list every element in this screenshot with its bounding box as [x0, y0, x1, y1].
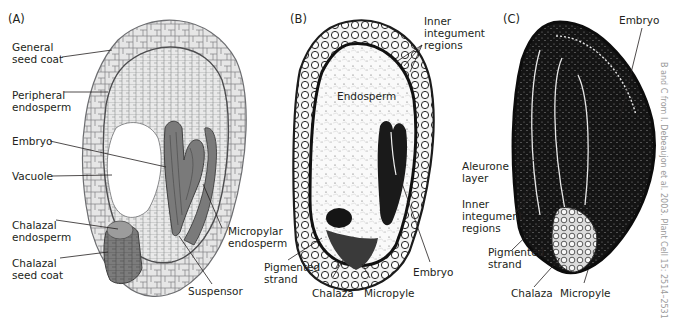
- label-micropylar-endosperm: Micropylar endosperm: [228, 225, 287, 249]
- label-aleurone-layer: Aleurone layer: [462, 160, 509, 184]
- panel-c-micrograph: [513, 22, 654, 273]
- chalazal-endosperm-shape: [107, 221, 133, 239]
- label-chalaza-b: Chalaza: [312, 287, 354, 299]
- label-suspensor: Suspensor: [188, 285, 243, 297]
- label-general-seed-coat: General seed coat: [12, 41, 63, 65]
- label-inner-integument-regions-b: Inner integument regions: [424, 15, 485, 51]
- panel-a-drawing: [83, 20, 247, 296]
- label-micropyle-c: Micropyle: [560, 287, 611, 299]
- label-micropyle-b: Micropyle: [364, 287, 415, 299]
- label-vacuole: Vacuole: [12, 170, 53, 182]
- label-chalaza-c: Chalaza: [511, 287, 553, 299]
- label-embryo-c: Embryo: [619, 14, 659, 26]
- image-credit: B and C from I. Debeaujon et al. 2003. P…: [659, 62, 668, 319]
- panel-b-micrograph: [293, 20, 433, 290]
- label-peripheral-endosperm: Peripheral endosperm: [12, 89, 71, 113]
- label-chalazal-endosperm: Chalazal endosperm: [12, 219, 71, 243]
- label-endosperm: Endosperm: [337, 90, 396, 102]
- panel-a-letter: (A): [8, 12, 25, 26]
- label-chalazal-seed-coat: Chalazal seed coat: [12, 257, 63, 281]
- label-pigmented-strand-b: Pigmented strand: [264, 261, 320, 285]
- label-pigmented-strand-c: Pigmented strand: [488, 246, 544, 270]
- label-embryo-a: Embryo: [12, 135, 52, 147]
- panel-c-letter: (C): [503, 12, 520, 26]
- label-inner-integument-regions-c: Inner integument regions: [462, 198, 523, 234]
- label-embryo-b: Embryo: [413, 266, 453, 278]
- panel-b-letter: (B): [290, 12, 307, 26]
